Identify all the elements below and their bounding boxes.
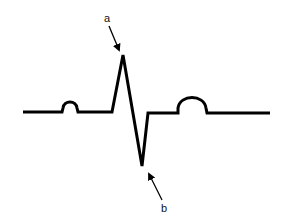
label-b: b (161, 202, 167, 214)
arrow-b (149, 174, 162, 200)
ecg-trace (23, 55, 270, 166)
arrow-a (109, 26, 119, 50)
ecg-diagram: a b (0, 0, 285, 222)
label-a: a (104, 12, 111, 24)
